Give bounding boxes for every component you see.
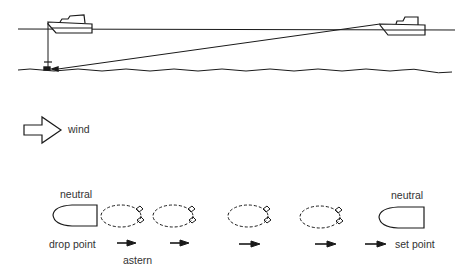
hull-astern-step-3-icon — [228, 205, 271, 227]
set-point-label: set point — [395, 239, 435, 250]
motion-arrow-icon — [239, 241, 260, 247]
anchoring-diagram — [0, 0, 467, 277]
hull-astern-step-4-icon — [300, 206, 343, 228]
anchor-rode-line — [58, 24, 380, 69]
anchor-icon — [44, 67, 58, 71]
hull-astern-step-2-icon — [153, 205, 196, 227]
hull-neutral-end-icon — [379, 207, 424, 228]
neutral-start-label: neutral — [60, 189, 92, 200]
motion-arrow-icon — [117, 240, 136, 246]
boat-at-set-point-icon — [380, 17, 425, 35]
wind-arrow-icon — [24, 117, 61, 143]
seabed-line — [18, 69, 452, 73]
motion-arrows — [117, 240, 386, 247]
neutral-end-label: neutral — [391, 190, 423, 201]
hull-astern-step-1-icon — [101, 205, 144, 227]
motion-arrow-icon — [365, 241, 386, 247]
motion-arrow-icon — [315, 241, 336, 247]
hull-neutral-start-icon — [53, 205, 97, 226]
drop-point-label: drop point — [49, 239, 96, 250]
astern-label: astern — [123, 255, 152, 266]
wind-label: wind — [68, 124, 90, 135]
motion-arrow-icon — [170, 240, 189, 246]
boat-at-drop-point-icon — [48, 15, 92, 33]
